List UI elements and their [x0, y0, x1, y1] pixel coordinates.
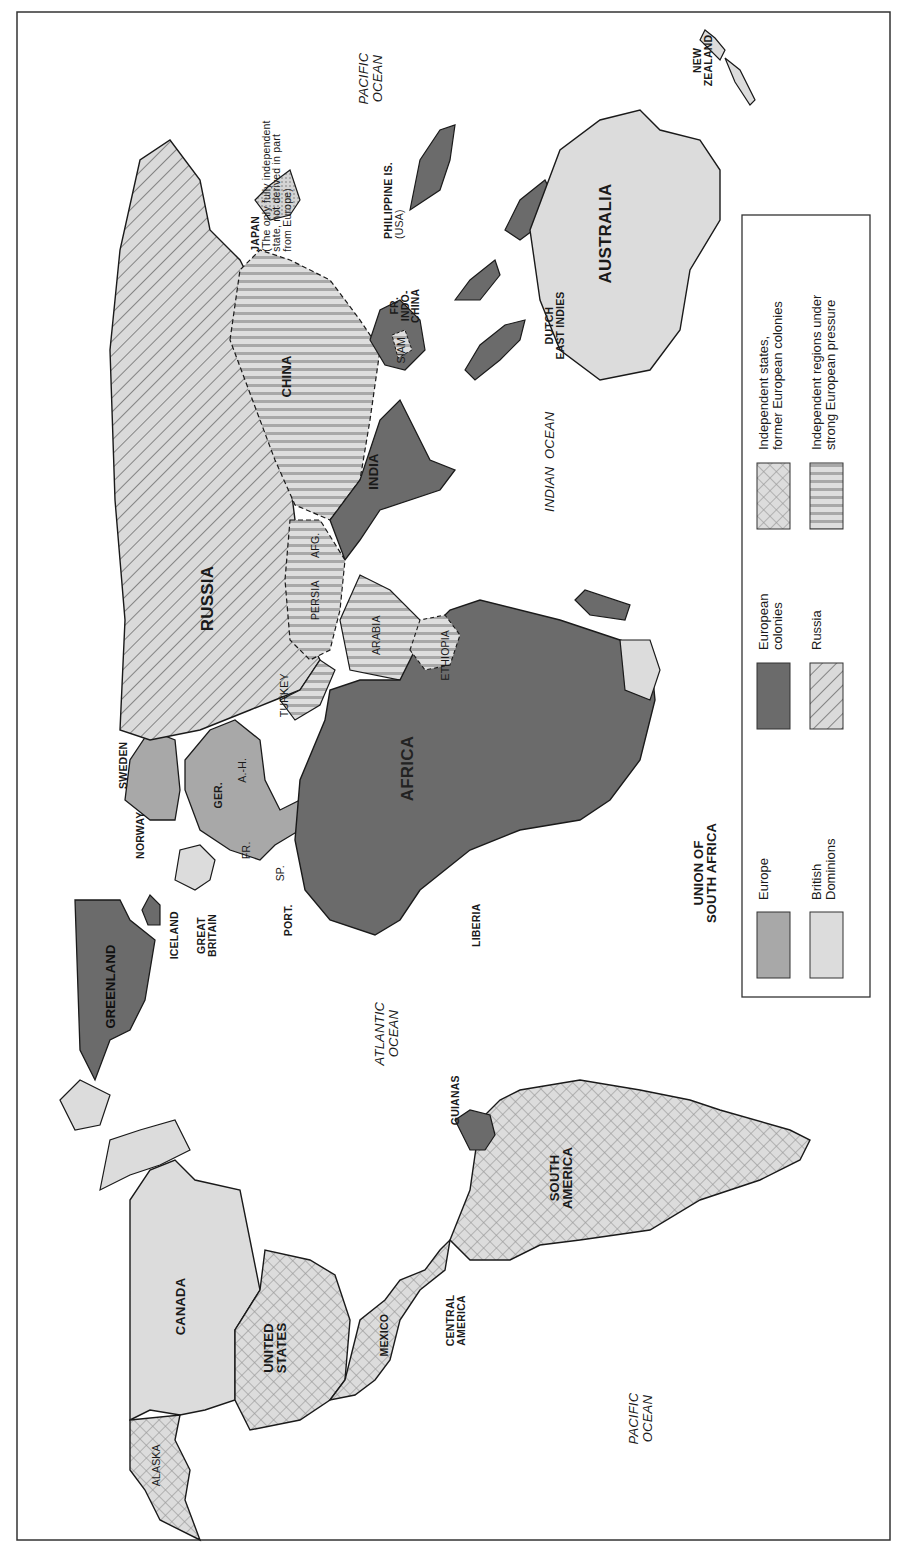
legend-swatch-europe: [757, 912, 790, 978]
label-spain: SP.: [275, 865, 286, 881]
legend-swatch-dominions: [810, 912, 843, 978]
legend-swatch-russia: [810, 663, 843, 729]
legend-swatch-colonies: [757, 663, 790, 729]
label-siam: SIAM: [396, 337, 407, 363]
legend-swatch-former-colonies: [757, 463, 790, 529]
label-portugal: PORT.: [283, 904, 294, 936]
label-japan: JAPAN (The only fully independent state,…: [250, 120, 292, 251]
label-mexico: MEXICO: [379, 1314, 390, 1357]
label-austria-hungary: A.-H.: [237, 758, 248, 783]
label-guianas: GUIANAS: [450, 1075, 461, 1125]
label-africa: AFRICA: [399, 736, 416, 801]
label-new-zealand: NEWZEALAND: [692, 35, 713, 87]
label-liberia: LIBERIA: [471, 904, 482, 947]
label-south-africa: UNION OFSOUTH AFRICA: [692, 823, 718, 923]
label-china: CHINA: [280, 355, 293, 397]
label-pacific-west: PACIFICOCEAN: [627, 1393, 654, 1445]
label-united-states-line2: STATES: [274, 1323, 289, 1374]
label-afghanistan: AFG.: [310, 533, 321, 558]
label-germany: GER.: [213, 782, 224, 808]
legend-label-russia: Russia: [810, 610, 824, 650]
label-france: FR.: [241, 841, 252, 859]
label-south-america: SOUTHAMERICA: [548, 1147, 574, 1209]
label-atlantic: ATLANTICOCEAN: [373, 1002, 400, 1065]
legend-label-pressure: Independent regions understrong European…: [810, 295, 837, 450]
label-indian-ocean: INDIAN OCEAN: [543, 412, 557, 512]
label-turkey: TURKEY: [279, 673, 290, 717]
label-dutch-east-indies: DUTCHEAST INDIES: [544, 291, 565, 359]
legend-label-europe: Europe: [757, 858, 771, 900]
label-australia: AUSTRALIA: [597, 183, 614, 283]
legend-label-dominions: BritishDominions: [810, 839, 837, 900]
label-arabia: ARABIA: [371, 615, 382, 655]
label-great-britain: GREATBRITAIN: [196, 914, 217, 957]
legend-swatch-pressure: [810, 463, 843, 529]
label-pacific-east: PACIFICOCEAN: [357, 53, 384, 105]
label-alaska: ALASKA: [151, 1444, 162, 1486]
label-canada: CANADA: [174, 1278, 187, 1336]
label-philippines: PHILIPPINE IS.(USA): [383, 162, 404, 239]
label-indochina: FR.INDO-CHINA: [389, 289, 421, 323]
legend-label-colonies: Europeancolonies: [757, 594, 784, 650]
label-iceland: ICELAND: [169, 911, 180, 959]
label-sweden: SWEDEN: [118, 742, 129, 789]
legend-label-former-colonies: Independent states,former European colon…: [757, 301, 784, 450]
label-norway: NORWAY: [135, 812, 146, 859]
label-united-states: UNITED STATES: [262, 1323, 288, 1374]
label-ethiopia: ETHIOPIA: [440, 630, 451, 681]
label-persia: PERSIA: [310, 580, 321, 620]
label-russia: RUSSIA: [199, 566, 216, 631]
label-central-america: CENTRALAMERICA: [445, 1295, 466, 1347]
label-india: INDIA: [367, 453, 380, 489]
label-greenland: GREENLAND: [104, 944, 117, 1028]
